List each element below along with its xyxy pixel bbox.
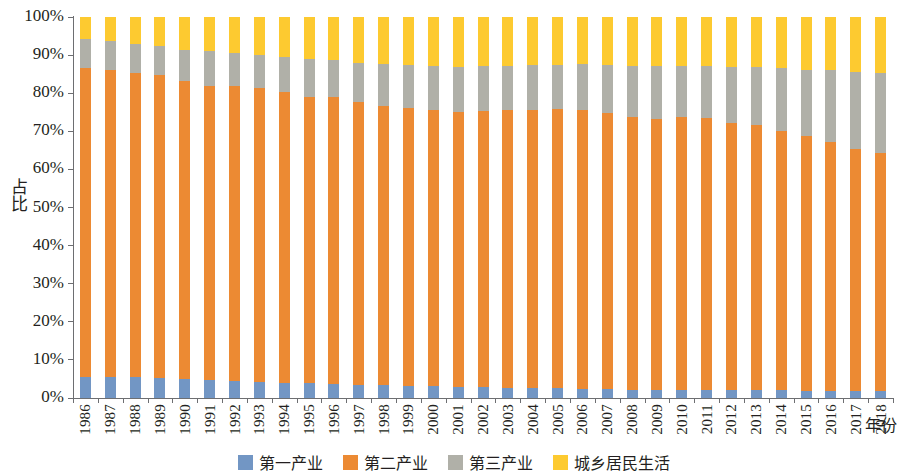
bar-segment[interactable] (602, 65, 613, 113)
bar-segment[interactable] (701, 66, 712, 118)
bar-segment[interactable] (304, 383, 315, 398)
legend-item[interactable]: 第一产业 (238, 450, 323, 472)
bar-segment[interactable] (751, 390, 762, 398)
bar-segment[interactable] (825, 142, 836, 391)
bar-segment[interactable] (428, 17, 439, 66)
legend-item[interactable]: 第二产业 (343, 450, 428, 472)
bar-segment[interactable] (577, 110, 588, 389)
bar-segment[interactable] (378, 17, 389, 64)
bar-segment[interactable] (80, 39, 91, 68)
bar-segment[interactable] (676, 390, 687, 398)
bar-segment[interactable] (254, 55, 265, 89)
bar-segment[interactable] (328, 60, 339, 96)
bar-column[interactable] (80, 17, 91, 398)
bar-segment[interactable] (676, 17, 687, 66)
bar-column[interactable] (701, 17, 712, 398)
bar-segment[interactable] (204, 51, 215, 86)
bar-column[interactable] (751, 17, 762, 398)
bar-column[interactable] (403, 17, 414, 398)
bar-segment[interactable] (527, 17, 538, 65)
bar-segment[interactable] (726, 17, 737, 67)
bar-segment[interactable] (577, 64, 588, 110)
bar-segment[interactable] (130, 377, 141, 398)
bar-segment[interactable] (353, 63, 364, 102)
bar-segment[interactable] (403, 108, 414, 386)
bar-segment[interactable] (105, 377, 116, 398)
bar-segment[interactable] (353, 385, 364, 398)
bar-segment[interactable] (179, 17, 190, 50)
bar-segment[interactable] (676, 117, 687, 390)
bar-segment[interactable] (602, 389, 613, 398)
bar-segment[interactable] (328, 17, 339, 60)
bar-segment[interactable] (229, 86, 240, 382)
bar-column[interactable] (304, 17, 315, 398)
bar-segment[interactable] (179, 50, 190, 82)
bar-segment[interactable] (627, 390, 638, 398)
bar-segment[interactable] (304, 97, 315, 383)
bar-column[interactable] (279, 17, 290, 398)
bar-segment[interactable] (478, 17, 489, 66)
bar-column[interactable] (179, 17, 190, 398)
legend-item[interactable]: 城乡居民生活 (553, 450, 670, 472)
bar-segment[interactable] (453, 17, 464, 67)
bar-segment[interactable] (552, 65, 563, 109)
bar-column[interactable] (428, 17, 439, 398)
bar-column[interactable] (726, 17, 737, 398)
bar-segment[interactable] (701, 118, 712, 390)
bar-segment[interactable] (80, 377, 91, 398)
bar-segment[interactable] (875, 153, 886, 391)
bar-column[interactable] (453, 17, 464, 398)
bar-segment[interactable] (701, 390, 712, 398)
bar-segment[interactable] (627, 117, 638, 389)
bar-segment[interactable] (801, 17, 812, 70)
bar-segment[interactable] (801, 70, 812, 137)
bar-column[interactable] (105, 17, 116, 398)
bar-segment[interactable] (527, 65, 538, 109)
bar-column[interactable] (850, 17, 861, 398)
bar-segment[interactable] (875, 391, 886, 398)
bar-column[interactable] (627, 17, 638, 398)
bar-segment[interactable] (204, 380, 215, 398)
bar-segment[interactable] (229, 381, 240, 398)
bar-segment[interactable] (428, 110, 439, 387)
bar-segment[interactable] (254, 382, 265, 398)
bar-column[interactable] (676, 17, 687, 398)
bar-segment[interactable] (403, 17, 414, 65)
bar-segment[interactable] (502, 110, 513, 388)
bar-segment[interactable] (676, 66, 687, 117)
bar-segment[interactable] (875, 17, 886, 73)
bar-segment[interactable] (453, 67, 464, 112)
bar-segment[interactable] (527, 110, 538, 389)
bar-segment[interactable] (651, 66, 662, 119)
bar-segment[interactable] (279, 57, 290, 92)
bar-segment[interactable] (204, 17, 215, 51)
bar-segment[interactable] (204, 86, 215, 381)
bar-segment[interactable] (801, 136, 812, 391)
bar-segment[interactable] (651, 17, 662, 66)
bar-segment[interactable] (850, 17, 861, 72)
bar-segment[interactable] (353, 102, 364, 385)
legend-item[interactable]: 第三产业 (448, 450, 533, 472)
bar-segment[interactable] (478, 387, 489, 398)
bar-segment[interactable] (254, 88, 265, 381)
bar-column[interactable] (154, 17, 165, 398)
bar-segment[interactable] (627, 66, 638, 117)
bar-segment[interactable] (602, 17, 613, 65)
bar-segment[interactable] (502, 17, 513, 66)
bar-column[interactable] (502, 17, 513, 398)
bar-segment[interactable] (751, 67, 762, 125)
bar-segment[interactable] (577, 17, 588, 64)
bar-segment[interactable] (80, 17, 91, 39)
bar-column[interactable] (875, 17, 886, 398)
bar-segment[interactable] (502, 388, 513, 398)
bar-segment[interactable] (875, 73, 886, 154)
bar-segment[interactable] (428, 386, 439, 398)
bar-segment[interactable] (726, 67, 737, 123)
bar-segment[interactable] (154, 17, 165, 46)
bar-segment[interactable] (378, 106, 389, 385)
bar-column[interactable] (651, 17, 662, 398)
bar-segment[interactable] (776, 131, 787, 390)
bar-segment[interactable] (651, 119, 662, 390)
bar-segment[interactable] (453, 112, 464, 387)
bar-segment[interactable] (825, 70, 836, 142)
